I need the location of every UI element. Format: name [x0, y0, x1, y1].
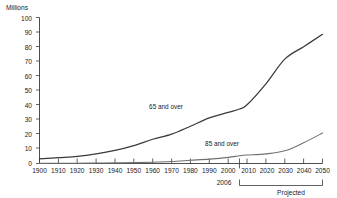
x-tick-label: 2030	[278, 167, 293, 174]
y-tick-label: 10	[25, 145, 33, 152]
y-tick-label: 100	[21, 15, 32, 22]
y-tick-label: 80	[25, 44, 33, 51]
x-tick-label: 2040	[297, 167, 312, 174]
series-label-65-and-over: 65 and over	[149, 103, 184, 110]
projected-label: Projected	[277, 189, 305, 197]
x-tick-label: 1990	[202, 167, 217, 174]
x-tick-label: 1950	[126, 167, 141, 174]
x-tick-label: 1940	[108, 167, 123, 174]
x-tick-label: 1980	[183, 167, 198, 174]
projected-bracket	[240, 180, 323, 186]
x-tick-label: 2020	[260, 167, 275, 174]
y-tick-label: 90	[25, 29, 33, 36]
x-tick-label: 1960	[145, 167, 160, 174]
y-tick-label: 50	[25, 87, 33, 94]
x-tick-label: 1920	[70, 167, 85, 174]
y-tick-label: 0	[28, 160, 32, 167]
x-tick-label: 1900	[32, 167, 47, 174]
y-tick-label: 20	[25, 131, 33, 138]
y-tick-label: 60	[25, 73, 33, 80]
y-axis-title: Millions	[6, 4, 29, 11]
series-label-85-and-over: 85 and over	[205, 140, 240, 147]
x-tick-label: 1910	[51, 167, 66, 174]
series-line-85-and-over	[40, 133, 323, 163]
y-axis-ticks	[36, 18, 40, 164]
x-tick-label: 2010	[241, 167, 256, 174]
y-tick-label: 30	[25, 116, 33, 123]
series-line-65-and-over	[40, 34, 323, 159]
x-tick-label: 1930	[89, 167, 104, 174]
population-projection-line-chart: Millions 100 90 80 70 60 50 40 30 20 10 …	[0, 0, 337, 198]
x-tick-label: 1970	[164, 167, 179, 174]
x-tick-label: 2000	[221, 167, 236, 174]
chart-container: Millions 100 90 80 70 60 50 40 30 20 10 …	[0, 0, 337, 198]
y-tick-label: 70	[25, 58, 33, 65]
projection-start-year-label: 2006	[217, 179, 232, 186]
y-tick-label: 40	[25, 102, 33, 109]
x-tick-label: 2050	[315, 167, 330, 174]
